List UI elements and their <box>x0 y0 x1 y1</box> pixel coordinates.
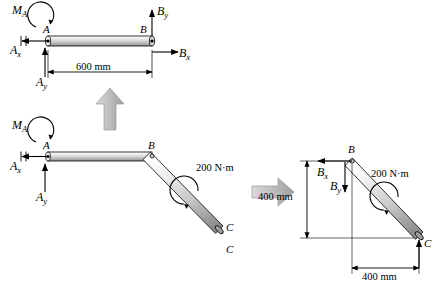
middle-applied-moment-label: 200 N·m <box>196 163 234 174</box>
middle-force-ax-arrow <box>21 152 48 162</box>
right-force-bx-label: Bx <box>317 166 328 181</box>
middle-moment-ma-label: MA <box>12 119 27 134</box>
top-force-ax-label: Ax <box>10 44 21 59</box>
right-point-c-label: C <box>424 238 431 249</box>
top-point-b-label: B <box>140 24 147 35</box>
top-force-ay-label: Ay <box>36 76 47 91</box>
top-point-b-marker <box>150 39 153 42</box>
middle-force-ay-label: Ay <box>36 191 47 206</box>
right-dimension-vertical-label: 400 mm <box>258 192 293 203</box>
right-applied-moment-label: 200 N·m <box>371 169 409 180</box>
middle-point-c-lower-label: C <box>226 244 233 255</box>
right-point-b-label: B <box>348 144 355 155</box>
middle-force-ax-label: Ax <box>10 160 21 175</box>
diagram-canvas <box>0 0 442 299</box>
middle-joint-b-marker <box>150 154 154 158</box>
middle-point-b-label: B <box>148 140 155 151</box>
middle-bar-body-ab <box>46 152 152 161</box>
top-dimension-600-label: 600 mm <box>76 62 111 73</box>
top-moment-ma-label: MA <box>12 4 27 19</box>
right-dimension-horizontal-label: 400 mm <box>362 272 397 283</box>
middle-point-c-upper-label: C <box>226 222 233 233</box>
big-up-arrow <box>96 88 124 130</box>
top-force-by-label: By <box>157 5 168 20</box>
top-force-ax-arrow <box>21 36 48 46</box>
right-force-by-label: By <box>330 180 341 195</box>
diagram-root: MA Ax Ay A B By Bx 600 mm MA Ax Ay A B C… <box>0 0 442 299</box>
top-bar-body <box>45 36 154 46</box>
middle-point-a-label: A <box>43 140 50 151</box>
top-force-bx-label: Bx <box>179 47 190 62</box>
top-point-a-label: A <box>43 24 50 35</box>
